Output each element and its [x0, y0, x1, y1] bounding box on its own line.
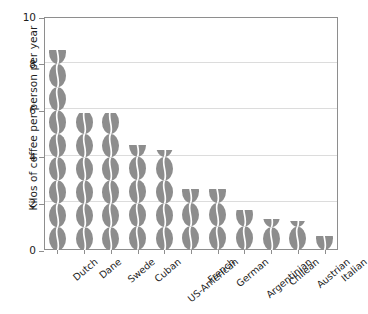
x-label-dane: Dane: [97, 256, 123, 281]
coffee-bean-stack: [263, 219, 280, 250]
y-axis-ticks: 0246810: [0, 17, 44, 250]
x-tick-mark: [298, 250, 299, 254]
y-tick-label: 6: [29, 104, 39, 116]
x-label-german: German: [234, 256, 271, 289]
y-tick-label: 8: [29, 58, 39, 70]
x-label-cuban: Cuban: [152, 256, 183, 284]
coffee-bean-stack: [209, 189, 226, 250]
x-tick-mark: [138, 250, 139, 254]
bar-swede[interactable]: [97, 113, 124, 250]
x-tick-mark: [84, 250, 85, 254]
bar-dutch[interactable]: [44, 50, 71, 250]
bar-chilean[interactable]: [258, 219, 285, 250]
coffee-bean-stack: [129, 145, 146, 250]
bar-us-american[interactable]: [151, 150, 178, 250]
bar-dane[interactable]: [71, 113, 98, 250]
x-tick-mark: [325, 250, 326, 254]
y-tick-10: 10: [23, 11, 44, 23]
bar-french[interactable]: [178, 189, 205, 250]
chart-title: [160, 0, 200, 8]
coffee-bean-stack: [182, 189, 199, 250]
x-label-dutch: Dutch: [71, 256, 100, 283]
x-tick-mark: [271, 250, 272, 254]
y-tick-6: 6: [29, 104, 44, 116]
x-tick-mark: [57, 250, 58, 254]
bar-austrian[interactable]: [285, 221, 312, 250]
y-tick-label: 2: [29, 197, 39, 209]
y-tick-8: 8: [29, 58, 44, 70]
x-axis-labels: DutchDaneSwedeCubanUS-AmericanFrenchGerm…: [0, 250, 347, 314]
y-tick-4: 4: [29, 151, 44, 163]
bars-layer: [44, 17, 338, 250]
coffee-bean-stack: [289, 221, 306, 250]
bar-german[interactable]: [204, 189, 231, 250]
coffee-bean-stack: [102, 113, 119, 250]
x-tick-mark: [244, 250, 245, 254]
y-tick-label: 10: [23, 11, 39, 23]
bar-italian[interactable]: [311, 236, 338, 250]
coffee-bean-stack: [236, 210, 253, 250]
x-tick-mark: [111, 250, 112, 254]
x-tick-mark: [218, 250, 219, 254]
bar-cuban[interactable]: [124, 145, 151, 250]
x-tick-mark: [164, 250, 165, 254]
coffee-bean-stack: [156, 150, 173, 250]
coffee-bean-stack: [49, 50, 66, 250]
x-label-swede: Swede: [125, 256, 156, 285]
bar-argentinian[interactable]: [231, 210, 258, 250]
y-tick-label: 4: [29, 151, 39, 163]
coffee-bean-stack: [316, 236, 333, 250]
coffee-bean-stack: [76, 113, 93, 250]
y-tick-2: 2: [29, 197, 44, 209]
x-tick-mark: [191, 250, 192, 254]
